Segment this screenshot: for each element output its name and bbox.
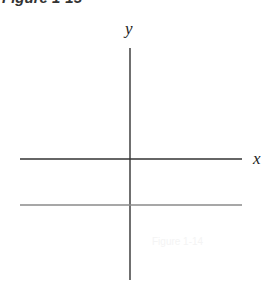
y-axis-label: y — [125, 20, 133, 37]
coordinate-plane — [0, 0, 278, 287]
x-axis-label: x — [253, 150, 261, 167]
bleed-through-text: Figure 1-14 — [152, 236, 203, 247]
